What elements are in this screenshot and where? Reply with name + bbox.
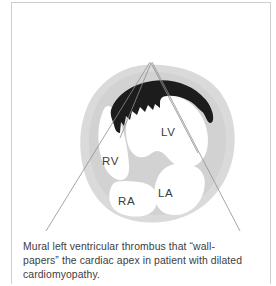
figure-caption: Mural left ventricular thrombus that “wa… [23,240,255,283]
label-lv: LV [161,126,175,138]
label-la: LA [158,187,173,199]
caption-line-2: papers” the cardiac apex in patient with… [23,254,255,268]
heart-diagram-svg: LV RV RA LA [12,3,270,235]
heart-illustration: LV RV RA LA [12,3,270,235]
label-ra: RA [118,195,135,207]
figure-page: LV RV RA LA Mural left ventricular throm… [0,0,276,286]
caption-line-1: Mural left ventricular thrombus that “wa… [23,240,255,254]
label-rv: RV [102,155,119,167]
caption-line-3: cardiomyopathy. [23,268,255,282]
